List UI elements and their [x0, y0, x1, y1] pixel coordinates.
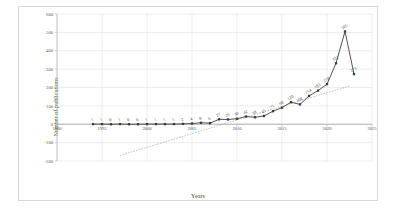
svg-text:1: 1: [99, 117, 103, 122]
svg-text:30: 30: [233, 111, 239, 117]
svg-text:4: 4: [189, 116, 194, 122]
x-axis-ticks: 19901995200020052010201520202025: [52, 124, 377, 131]
svg-text:505: 505: [340, 23, 348, 31]
svg-text:45: 45: [260, 108, 266, 114]
svg-text:1: 1: [90, 117, 94, 122]
svg-text:1: 1: [162, 117, 166, 122]
svg-text:-200: -200: [45, 159, 54, 164]
svg-text:273: 273: [349, 66, 357, 74]
svg-text:38: 38: [251, 109, 257, 115]
chart-container: Number of publications Years 60050040030…: [0, 0, 396, 213]
svg-text:2000: 2000: [142, 126, 152, 131]
svg-text:42: 42: [242, 109, 248, 115]
svg-text:2015: 2015: [277, 126, 287, 131]
svg-text:1990: 1990: [52, 126, 62, 131]
svg-text:120: 120: [286, 94, 294, 102]
svg-text:183: 183: [313, 82, 321, 90]
svg-text:1: 1: [144, 117, 148, 122]
data-series-line: [93, 31, 354, 124]
svg-text:2: 2: [180, 116, 184, 121]
svg-text:27: 27: [215, 111, 222, 118]
svg-text:0: 0: [108, 117, 112, 122]
svg-text:1: 1: [171, 117, 175, 122]
svg-text:0: 0: [126, 117, 130, 122]
svg-text:600: 600: [46, 12, 54, 17]
svg-text:2010: 2010: [232, 126, 242, 131]
svg-text:500: 500: [46, 30, 54, 35]
gridlines: [57, 14, 372, 161]
svg-text:8: 8: [198, 115, 202, 120]
svg-text:218: 218: [322, 76, 330, 84]
svg-text:2005: 2005: [187, 126, 197, 131]
svg-text:2020: 2020: [322, 126, 332, 131]
svg-text:1: 1: [117, 117, 121, 122]
svg-text:1: 1: [153, 117, 157, 122]
svg-text:90: 90: [278, 100, 284, 106]
svg-text:-100: -100: [45, 140, 54, 145]
svg-text:71: 71: [269, 103, 275, 109]
svg-text:26: 26: [224, 111, 231, 118]
data-point-markers: [92, 30, 355, 125]
y-axis-ticks: 6005004003002001000-100-200: [45, 12, 57, 164]
svg-text:300: 300: [46, 67, 54, 72]
data-point-labels: 1101001111248627263042384571901201081541…: [90, 23, 357, 122]
svg-text:1995: 1995: [97, 126, 107, 131]
svg-text:0: 0: [135, 117, 139, 122]
svg-text:2025: 2025: [367, 126, 377, 131]
svg-text:6: 6: [207, 115, 212, 121]
svg-text:100: 100: [46, 104, 54, 109]
svg-text:400: 400: [46, 48, 54, 53]
svg-text:200: 200: [46, 85, 54, 90]
line-chart-plot: 6005004003002001000-100-200 199019952000…: [0, 0, 396, 213]
